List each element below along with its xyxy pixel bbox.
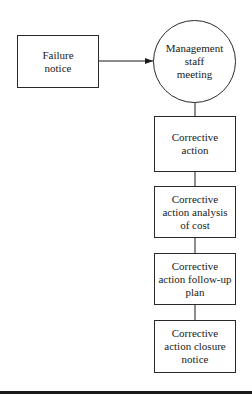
node-label: Corrective action closure notice	[164, 327, 225, 366]
node-label: Corrective action follow-up plan	[158, 260, 231, 299]
node-corrective-action: Corrective action	[154, 116, 236, 172]
node-label: Corrective action analysis of cost	[162, 193, 227, 232]
node-label: Corrective action	[172, 131, 218, 157]
bottom-rule-divider	[0, 391, 252, 394]
node-corrective-action-closure-notice: Corrective action closure notice	[154, 320, 236, 373]
node-failure-notice: Failure notice	[17, 35, 99, 88]
node-label: Management staff meeting	[166, 42, 223, 81]
node-label: Failure notice	[42, 49, 73, 75]
node-corrective-action-analysis-of-cost: Corrective action analysis of cost	[154, 186, 236, 238]
node-corrective-action-follow-up-plan: Corrective action follow-up plan	[154, 253, 236, 305]
node-management-staff-meeting: Management staff meeting	[153, 20, 236, 103]
